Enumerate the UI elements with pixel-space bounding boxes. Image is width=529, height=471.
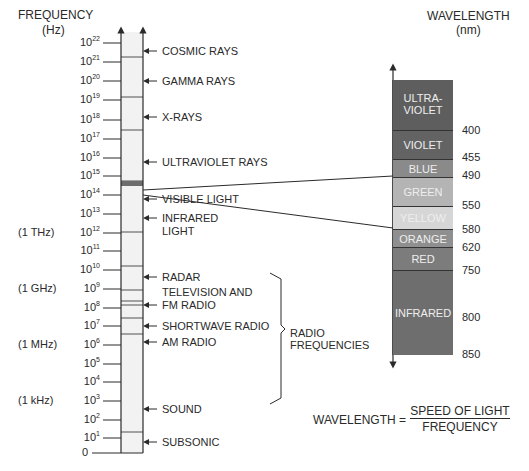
wavelength-segment: VIOLET xyxy=(393,130,453,159)
wavelength-segment: ORANGE xyxy=(393,229,453,247)
band-label: SUBSONIC xyxy=(162,436,219,448)
wavelength-value: 850 xyxy=(462,348,480,360)
wavelength-segment: GREEN xyxy=(393,177,453,206)
wavelength-value: 400 xyxy=(462,124,480,136)
band-label: VISIBLE LIGHT xyxy=(162,193,239,205)
wavelength-value: 550 xyxy=(462,199,480,211)
formula-lhs: WAVELENGTH = xyxy=(313,414,406,426)
band-label: X-RAYS xyxy=(162,111,202,123)
wavelength-value: 800 xyxy=(462,311,480,323)
band-label: COSMIC RAYS xyxy=(162,45,238,57)
band-label: TELEVISION ANDFM RADIO xyxy=(162,286,252,311)
band-label: RADAR xyxy=(162,271,201,283)
wavelength-bar: ULTRA-VIOLETVIOLETBLUEGREENYELLOWORANGER… xyxy=(393,80,453,355)
band-label: SOUND xyxy=(162,403,202,415)
band-label: ULTRAVIOLET RAYS xyxy=(162,156,268,168)
wavelength-unit: (nm) xyxy=(456,24,481,36)
wavelength-value: 580 xyxy=(462,223,480,235)
wavelength-title: WAVELENGTH xyxy=(427,10,510,22)
wavelength-value: 455 xyxy=(462,151,480,163)
band-label: AM RADIO xyxy=(162,336,216,348)
band-label: SHORTWAVE RADIO xyxy=(162,320,269,332)
radio-bracket-label: RADIO FREQUENCIES xyxy=(290,327,369,351)
wavelength-segment: INFRARED xyxy=(393,270,453,355)
wavelength-value: 750 xyxy=(462,264,480,276)
band-label: GAMMA RAYS xyxy=(162,75,235,87)
wavelength-segment: BLUE xyxy=(393,159,453,177)
wavelength-segment: YELLOW xyxy=(393,206,453,229)
wavelength-segment: ULTRA-VIOLET xyxy=(393,80,453,130)
formula-denominator: FREQUENCY xyxy=(410,421,510,433)
wavelength-value: 490 xyxy=(462,169,480,181)
band-label: INFRAREDLIGHT xyxy=(162,212,218,237)
wavelength-value: 620 xyxy=(462,241,480,253)
formula-numerator: SPEED OF LIGHT xyxy=(410,405,510,419)
wavelength-segment: RED xyxy=(393,247,453,270)
